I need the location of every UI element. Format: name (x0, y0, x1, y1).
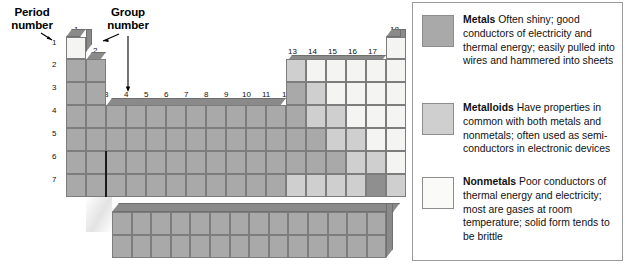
side-face-inner-transition (386, 203, 393, 258)
cell-p6-g17 (366, 151, 386, 174)
inner-cell-r2-c9 (269, 235, 289, 258)
periodic-table: Period number Group number 1 2 3 4 5 6 7… (0, 0, 408, 267)
inner-cell-r1-c14 (367, 212, 387, 235)
period-label-7: 7 (52, 176, 56, 184)
group-label-8: 8 (204, 91, 208, 99)
cell-p5-g3 (106, 128, 126, 151)
cell-p6-g18 (386, 151, 406, 174)
cell-p6-g8 (206, 151, 226, 174)
cell-p7-g17 (366, 174, 386, 197)
block-divider (105, 151, 107, 197)
cell-p5-g1 (66, 128, 86, 151)
cell-p2-g14 (306, 59, 326, 82)
inner-cell-r2-c3 (151, 235, 171, 258)
cell-p7-g7 (186, 174, 206, 197)
cell-p4-g10 (246, 105, 266, 128)
cell-p3-g1 (66, 82, 86, 105)
callout-group-number: Group number (92, 6, 164, 32)
legend-text-nonmetals: Nonmetals Poor conductors of thermal ene… (463, 175, 615, 244)
group-label-17: 17 (368, 48, 377, 56)
inner-cell-r2-c10 (288, 235, 308, 258)
cell-p6-g4 (126, 151, 146, 174)
cell-p6-g6 (166, 151, 186, 174)
group-label-5: 5 (144, 91, 148, 99)
legend-swatch-nonmetals (422, 177, 454, 209)
legend-text-metals: Metals Often shiny; good conductors of e… (463, 13, 615, 68)
period-label-6: 6 (52, 153, 56, 161)
cell-p4-g1 (66, 105, 86, 128)
period-label-3: 3 (52, 84, 56, 92)
cell-p2-g2 (86, 59, 106, 82)
inner-cell-r1-c1 (112, 212, 132, 235)
cell-p3-g2 (86, 82, 106, 105)
inner-cell-r1-c5 (190, 212, 210, 235)
cell-p4-g7 (186, 105, 206, 128)
group-label-7: 7 (184, 91, 188, 99)
period-label-5: 5 (52, 130, 56, 138)
cell-p4-g14 (306, 105, 326, 128)
cell-p5-g18 (386, 128, 406, 151)
cell-p6-g15 (326, 151, 346, 174)
inner-transition-block (112, 212, 386, 258)
inner-cell-r2-c13 (347, 235, 367, 258)
cell-p4-g17 (366, 105, 386, 128)
cell-p7-g2 (86, 174, 106, 197)
legend-swatch-metalloids (422, 103, 454, 135)
inner-cell-r2-c4 (171, 235, 191, 258)
inner-cell-r1-c4 (171, 212, 191, 235)
cell-p5-g15 (326, 128, 346, 151)
cell-p6-g13 (286, 151, 306, 174)
cell-p5-g17 (366, 128, 386, 151)
inner-cell-r1-c2 (132, 212, 152, 235)
top-face-group-1 (66, 29, 86, 37)
cell-p4-g15 (326, 105, 346, 128)
inner-cell-r1-c13 (347, 212, 367, 235)
cell-p2-g1 (66, 59, 86, 82)
cell-p4-g2 (86, 105, 106, 128)
cell-p3-g14 (306, 82, 326, 105)
cell-p4-g8 (206, 105, 226, 128)
legend-text-metalloids: Metalloids Have properties in common wit… (463, 101, 615, 156)
group-label-16: 16 (348, 48, 357, 56)
cell-p7-g4 (126, 174, 146, 197)
group-label-10: 10 (242, 91, 251, 99)
cell-p5-g10 (246, 128, 266, 151)
cell-p6-g9 (226, 151, 246, 174)
cell-p6-g2 (86, 151, 106, 174)
cell-p3-g17 (366, 82, 386, 105)
cell-p4-g6 (166, 105, 186, 128)
inner-cell-r1-c11 (308, 212, 328, 235)
cell-p7-g10 (246, 174, 266, 197)
cell-p5-g5 (146, 128, 166, 151)
cell-p1-g1 (66, 37, 86, 59)
inner-cell-r2-c12 (328, 235, 348, 258)
legend-panel: Metals Often shiny; good conductors of e… (412, 2, 623, 261)
group-label-14: 14 (308, 48, 317, 56)
cell-p3-g15 (326, 82, 346, 105)
cell-p5-g14 (306, 128, 326, 151)
callout-period-line1: Period (14, 6, 49, 18)
cell-p6-g1 (66, 151, 86, 174)
cell-p7-g6 (166, 174, 186, 197)
inner-cell-r2-c5 (190, 235, 210, 258)
callout-group-line1: Group (111, 6, 145, 18)
inner-cell-r1-c10 (288, 212, 308, 235)
legend-title-metals: Metals (463, 14, 495, 25)
cell-p4-g13 (286, 105, 306, 128)
cell-p5-g2 (86, 128, 106, 151)
cell-p7-g8 (206, 174, 226, 197)
inner-cell-r1-c7 (230, 212, 250, 235)
cell-p4-g4 (126, 105, 146, 128)
cell-p6-g7 (186, 151, 206, 174)
cell-p7-g14 (306, 174, 326, 197)
cell-p5-g13 (286, 128, 306, 151)
cell-p6-g3 (106, 151, 126, 174)
cell-p6-g10 (246, 151, 266, 174)
inner-cell-r1-c6 (210, 212, 230, 235)
cell-p3-g18 (386, 82, 406, 105)
group-label-4: 4 (124, 91, 128, 99)
callout-period-line2: number (11, 19, 53, 31)
cell-p4-g11 (266, 105, 286, 128)
group-label-13: 13 (288, 48, 297, 56)
cell-p6-g11 (266, 151, 286, 174)
